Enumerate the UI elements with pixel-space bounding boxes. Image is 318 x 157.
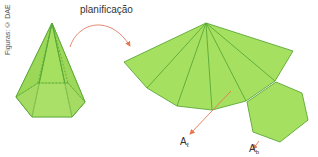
lateral-area-main: A [180, 136, 187, 147]
pyramid-net [124, 23, 308, 142]
lateral-area-label: Aℓ [180, 136, 189, 148]
lateral-area-sub: ℓ [187, 142, 189, 148]
base-area-sub: b [256, 149, 259, 155]
pyramid-diagram [0, 0, 318, 157]
planification-arrow [70, 25, 130, 47]
base-area-main: A [249, 143, 256, 154]
base-area-label: Ab [249, 143, 259, 155]
